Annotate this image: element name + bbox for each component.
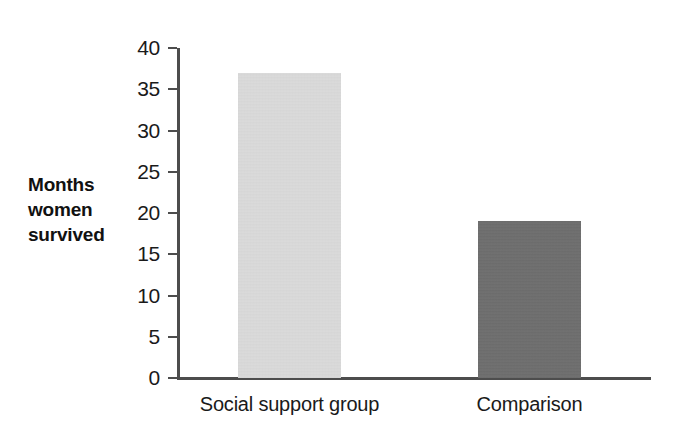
x-axis-category-label: Comparison: [380, 392, 675, 416]
bar-chart: Months women survived 4035302520151050 S…: [0, 0, 675, 440]
bar: [238, 73, 341, 378]
bar-texture: [478, 221, 581, 378]
bars-layer: [0, 0, 675, 378]
bar: [478, 221, 581, 378]
bar-texture: [238, 73, 341, 378]
